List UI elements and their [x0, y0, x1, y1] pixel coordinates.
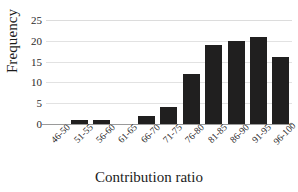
bar-slot: [158, 20, 180, 124]
y-axis-tick-labels: 2520151050: [0, 20, 42, 124]
bar-slot: [135, 20, 157, 124]
x-label-slot: 61-65: [113, 124, 135, 168]
x-axis-title: Contribution ratio: [0, 168, 298, 186]
bar-slot: [270, 20, 292, 124]
x-label-slot: 66-70: [135, 124, 157, 168]
bar: [205, 45, 222, 124]
bar-slot: [113, 20, 135, 124]
x-axis-tick-label: 96-100: [271, 120, 297, 146]
bar-slot: [247, 20, 269, 124]
x-label-slot: 76-80: [180, 124, 202, 168]
x-label-slot: 86-90: [225, 124, 247, 168]
bar: [160, 107, 177, 124]
y-axis-tick-label: 25: [2, 15, 42, 26]
x-label-slot: 96-100: [270, 124, 292, 168]
x-label-slot: 46-50: [46, 124, 68, 168]
y-axis-tick-label: 20: [2, 36, 42, 47]
bar: [272, 57, 289, 124]
x-label-slot: 91-95: [247, 124, 269, 168]
histogram-chart: Frequency 2520151050 46-5051-5556-6061-6…: [0, 0, 298, 192]
bar-slot: [46, 20, 68, 124]
bar: [228, 41, 245, 124]
x-label-slot: 81-85: [203, 124, 225, 168]
y-axis-tick-label: 0: [2, 119, 42, 130]
bar-slot: [91, 20, 113, 124]
bar-slot: [225, 20, 247, 124]
x-label-slot: 71-75: [158, 124, 180, 168]
bar: [250, 37, 267, 124]
y-axis-tick-label: 15: [2, 57, 42, 68]
x-label-slot: 51-55: [68, 124, 90, 168]
bar-slot: [203, 20, 225, 124]
x-axis-tick-labels: 46-5051-5556-6061-6566-7071-7576-8081-85…: [46, 124, 292, 168]
y-axis-tick-label: 5: [2, 98, 42, 109]
bar-slot: [180, 20, 202, 124]
bar-series: [46, 20, 292, 124]
bar: [183, 74, 200, 124]
bar-slot: [68, 20, 90, 124]
x-label-slot: 56-60: [91, 124, 113, 168]
y-axis-tick-label: 10: [2, 77, 42, 88]
